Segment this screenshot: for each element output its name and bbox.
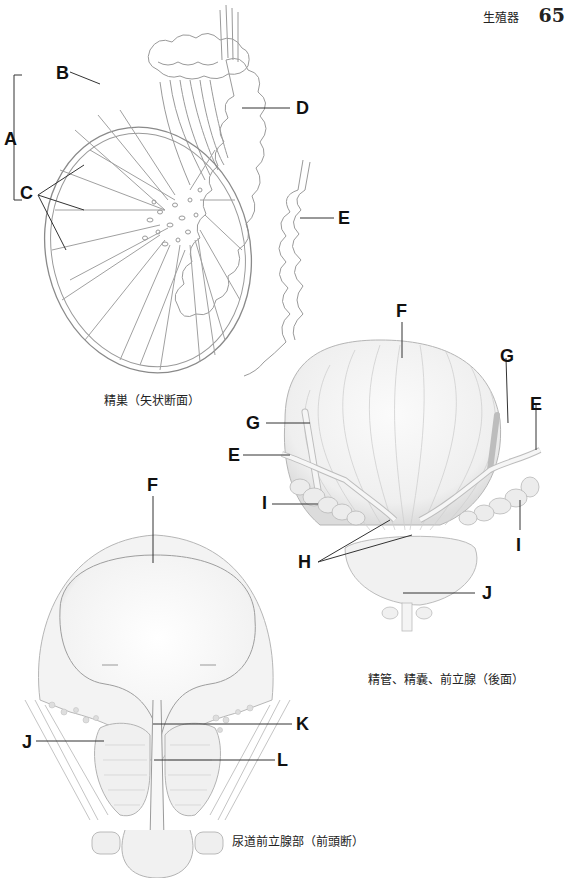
label-F: F <box>396 302 407 320</box>
label-E: E <box>338 209 350 227</box>
label-B: B <box>56 64 69 82</box>
label-E-right: E <box>530 395 542 413</box>
label-D: D <box>296 99 309 117</box>
label-I-left: I <box>262 494 267 512</box>
bladder-posterior-figure <box>243 322 540 631</box>
label-F-section: F <box>147 476 158 494</box>
label-I-right: I <box>516 536 521 554</box>
label-E-left: E <box>228 446 240 464</box>
label-C: C <box>20 184 33 202</box>
label-L: L <box>277 751 288 769</box>
prostatic-urethra-figure <box>25 496 292 878</box>
label-K: K <box>296 715 309 733</box>
label-A: A <box>4 130 17 148</box>
label-J: J <box>482 584 492 602</box>
caption-bladder-posterior: 精管、精嚢、前立腺（後面） <box>368 670 524 687</box>
anatomy-illustrations <box>0 0 579 878</box>
caption-testis: 精巣（矢状断面） <box>104 391 200 408</box>
label-G-left: G <box>246 414 260 432</box>
label-G-right: G <box>500 347 514 365</box>
caption-prostatic-urethra: 尿道前立腺部（前頭断） <box>232 832 364 849</box>
label-J-section: J <box>22 733 32 751</box>
label-H: H <box>298 553 311 571</box>
